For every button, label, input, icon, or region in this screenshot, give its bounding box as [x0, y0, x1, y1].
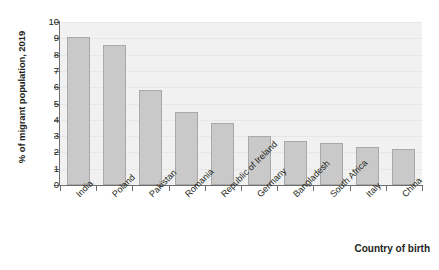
- x-tick-mark: [313, 186, 314, 191]
- x-axis-title: Country of birth: [280, 243, 430, 254]
- bar-series: [60, 22, 422, 185]
- x-tick-mark: [350, 186, 351, 191]
- plot-area: [60, 22, 422, 185]
- x-tick-mark: [241, 186, 242, 191]
- x-tick-mark: [96, 186, 97, 191]
- x-tick-mark: [277, 186, 278, 191]
- x-tick-mark: [132, 186, 133, 191]
- bar: [139, 90, 162, 185]
- y-tick-label: 1: [33, 164, 59, 174]
- y-tick-label: 8: [33, 50, 59, 60]
- y-tick-label: 0: [33, 180, 59, 190]
- y-tick-label: 4: [33, 115, 59, 125]
- x-tick-mark: [422, 186, 423, 191]
- y-tick-label: 9: [33, 33, 59, 43]
- y-axis-ticks: 109876543210: [0, 0, 59, 270]
- bar: [211, 123, 234, 185]
- bar-chart: % of migrant population, 2019 1098765432…: [0, 0, 439, 270]
- y-tick-label: 2: [33, 147, 59, 157]
- y-tick-label: 7: [33, 66, 59, 76]
- bar: [67, 37, 90, 185]
- x-tick-mark: [386, 186, 387, 191]
- y-tick-label: 6: [33, 82, 59, 92]
- y-tick-label: 5: [33, 99, 59, 109]
- y-axis-line: [59, 21, 60, 186]
- x-tick-mark: [169, 186, 170, 191]
- x-tick-mark: [205, 186, 206, 191]
- y-tick-label: 10: [33, 17, 59, 27]
- x-tick-mark: [60, 186, 61, 191]
- y-tick-label: 3: [33, 131, 59, 141]
- bar: [103, 45, 126, 185]
